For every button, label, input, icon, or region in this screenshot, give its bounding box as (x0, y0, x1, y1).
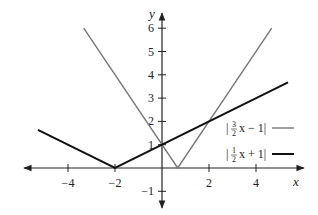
chart-canvas: −4−224−1123456xy |32x − 1||12x + 1| (0, 0, 318, 215)
legend-bar-left: | (226, 147, 228, 161)
x-axis-label: x (292, 174, 299, 189)
legend-frac-num: 1 (232, 146, 236, 155)
legend-item: |32x − 1| (226, 120, 294, 138)
legend: |32x − 1||12x + 1| (226, 120, 294, 164)
legend-frac-den: 2 (232, 129, 236, 138)
x-tick-label: 4 (253, 176, 259, 190)
y-tick-label: −1 (141, 184, 154, 198)
legend-bar-left: | (226, 121, 228, 135)
y-tick-label: 6 (148, 21, 154, 35)
legend-label: x − 1| (239, 121, 266, 135)
y-axis-label: y (147, 6, 155, 21)
x-tick-label: −4 (62, 176, 75, 190)
x-tick-label: 2 (206, 176, 212, 190)
y-tick-label: 5 (148, 45, 154, 59)
legend-label: x + 1| (239, 147, 266, 161)
x-tick-label: −2 (109, 176, 122, 190)
axes: −4−224−1123456xy (24, 6, 304, 208)
y-tick-label: 3 (148, 91, 154, 105)
legend-frac-num: 3 (232, 120, 236, 129)
legend-frac-den: 2 (232, 155, 236, 164)
legend-item: |12x + 1| (226, 146, 294, 164)
y-tick-label: 4 (148, 68, 154, 82)
